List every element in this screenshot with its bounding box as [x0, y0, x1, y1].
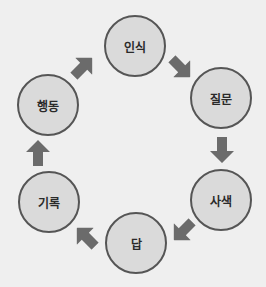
node-answer: 답: [105, 212, 167, 274]
node-record: 기록: [18, 171, 80, 233]
node-reflection: 사색: [190, 169, 252, 231]
node-question: 질문: [190, 67, 252, 129]
node-label: 행동: [37, 97, 59, 114]
arrow-up-icon: [26, 140, 50, 166]
arrow-down-icon: [210, 137, 234, 163]
node-label: 인식: [124, 38, 146, 55]
node-label: 사색: [210, 192, 232, 209]
node-action: 행동: [17, 74, 79, 136]
node-recognition: 인식: [104, 15, 166, 77]
arrow-down-right-icon: [163, 50, 198, 85]
arrow-up-left-icon: [68, 219, 103, 254]
node-label: 질문: [210, 90, 232, 107]
arrow-up-right-icon: [65, 49, 100, 84]
node-label: 기록: [38, 194, 60, 211]
node-label: 답: [131, 235, 142, 252]
cycle-diagram: 인식 질문 사색 답 기록 행동: [0, 0, 266, 287]
